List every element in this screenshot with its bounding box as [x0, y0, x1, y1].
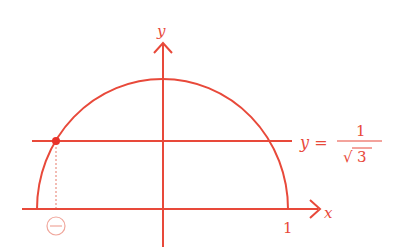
- fraction-denominator: 3: [357, 148, 367, 166]
- equation-lhs: y =: [299, 133, 328, 152]
- x-tick-label-one: 1: [283, 219, 293, 237]
- x-axis-label: x: [324, 204, 333, 222]
- y-axis-label: y: [156, 22, 166, 40]
- fraction-numerator: 1: [356, 122, 366, 140]
- fraction-radical-sign: √: [343, 148, 353, 166]
- intersection-point: [52, 137, 60, 145]
- diagram-canvas: y x 1 y = 1 √ 3: [0, 0, 405, 247]
